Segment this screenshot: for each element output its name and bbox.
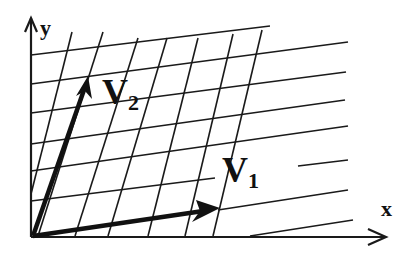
v2-label-base: V xyxy=(102,72,128,112)
basis-vector-diagram: y x V2 V1 xyxy=(0,0,416,258)
grid-lines-parallel-v2 xyxy=(31,30,262,236)
x-axis-label: x xyxy=(381,198,392,220)
v1-label: V1 xyxy=(222,152,259,192)
v1-label-subscript: 1 xyxy=(248,168,259,193)
v2-label: V2 xyxy=(102,74,139,114)
y-axis-label: y xyxy=(40,17,51,39)
v2-label-subscript: 2 xyxy=(128,90,139,115)
diagram-canvas xyxy=(0,0,416,258)
v1-label-base: V xyxy=(222,150,248,190)
